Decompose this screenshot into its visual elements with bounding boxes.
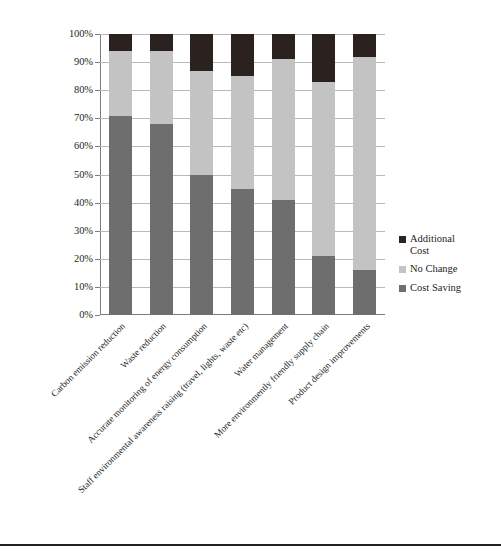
y-axis-tick-mark <box>95 146 100 147</box>
bar-segment-no-change <box>109 51 132 116</box>
legend-swatch-icon <box>399 266 406 273</box>
y-axis-tick-mark <box>95 90 100 91</box>
bar-segment-no-change <box>312 82 335 256</box>
bar-4 <box>231 34 254 315</box>
y-axis-tick-label: 80% <box>53 85 93 95</box>
y-axis-tick-mark <box>95 62 100 63</box>
y-axis-tick-mark <box>95 34 100 35</box>
bar-3 <box>190 34 213 315</box>
bar-segment-no-change <box>353 57 376 271</box>
bar-segment-cost-saving <box>353 270 376 315</box>
y-axis-tick-label: 100% <box>53 29 93 39</box>
plot-area <box>100 34 385 315</box>
bar-segment-additional-cost <box>150 34 173 51</box>
chart-legend: Additional CostNo ChangeCost Saving <box>399 233 499 300</box>
bar-segment-cost-saving <box>272 200 295 315</box>
bar-segment-no-change <box>190 71 213 175</box>
y-axis-tick-label: 70% <box>53 113 93 123</box>
bar-segment-no-change <box>150 51 173 124</box>
legend-label: No Change <box>410 263 458 275</box>
legend-label: Additional Cost <box>410 233 472 256</box>
bar-segment-cost-saving <box>150 124 173 315</box>
x-axis-label-1: Carbon emission reduction <box>50 321 128 399</box>
y-axis-tick-label: 50% <box>53 170 93 180</box>
bar-7 <box>353 34 376 315</box>
bar-6 <box>312 34 335 315</box>
bar-segment-cost-saving <box>109 116 132 316</box>
bar-2 <box>150 34 173 315</box>
y-axis-tick-label: 90% <box>53 57 93 67</box>
y-axis-tick-mark <box>95 203 100 204</box>
y-axis-tick-mark <box>95 315 100 316</box>
bar-segment-cost-saving <box>190 175 213 316</box>
bar-1 <box>109 34 132 315</box>
y-axis-tick-label: 0% <box>53 310 93 320</box>
bar-segment-no-change <box>231 76 254 188</box>
y-axis-tick-label: 20% <box>53 254 93 264</box>
bar-segment-additional-cost <box>231 34 254 76</box>
bottom-divider <box>0 544 501 546</box>
y-axis-tick-mark <box>95 287 100 288</box>
chart-figure: 0%10%20%30%40%50%60%70%80%90%100% Carbon… <box>0 0 501 557</box>
bar-segment-additional-cost <box>109 34 132 51</box>
y-axis-tick-label: 60% <box>53 141 93 151</box>
legend-swatch-icon <box>399 236 406 243</box>
bar-segment-additional-cost <box>272 34 295 59</box>
bar-segment-no-change <box>272 59 295 200</box>
legend-swatch-icon <box>399 285 406 292</box>
legend-item-cost-saving[interactable]: Cost Saving <box>399 282 499 294</box>
y-axis-tick-label: 10% <box>53 282 93 292</box>
bar-segment-additional-cost <box>190 34 213 71</box>
y-axis-tick-label: 40% <box>53 198 93 208</box>
y-axis-tick-mark <box>95 175 100 176</box>
legend-item-additional-cost[interactable]: Additional Cost <box>399 233 499 256</box>
x-axis-label-7: Product design improvements <box>286 321 372 407</box>
bar-segment-cost-saving <box>312 256 335 315</box>
bar-segment-additional-cost <box>353 34 376 56</box>
legend-label: Cost Saving <box>410 282 461 294</box>
bar-segment-additional-cost <box>312 34 335 82</box>
y-axis-tick-mark <box>95 231 100 232</box>
y-axis-tick-label: 30% <box>53 226 93 236</box>
y-axis-tick-mark <box>95 259 100 260</box>
bar-segment-cost-saving <box>231 189 254 315</box>
y-axis-tick-mark <box>95 118 100 119</box>
bar-5 <box>272 34 295 315</box>
legend-item-no-change[interactable]: No Change <box>399 263 499 275</box>
